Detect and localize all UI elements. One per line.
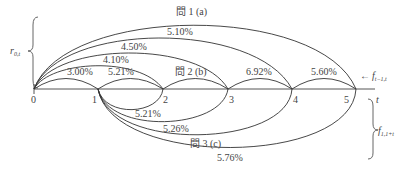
arc-1-2-forward [98,79,163,90]
arc-2-3-forward [163,79,228,90]
tick-4: 4 [293,94,298,105]
forward-rate-label: ft−1,t [372,70,387,82]
label-arc-1-4-question-3c: 問 3 (c) [190,138,221,150]
label-arc-3-4-forward: 6.92% [246,66,272,77]
label-arc-0-1: 3.00% [67,66,93,77]
label-arc-0-4: 5.10% [167,26,193,37]
arc-3-4-forward [228,79,292,90]
label-arc-1-2-lower: 5.21% [135,108,161,119]
tick-3: 3 [229,94,234,105]
spot-rate-brace [28,17,38,88]
forward-from-1-label: f1,1+t [378,125,394,137]
label-arc-0-5-question-1a: 問 1 (a) [176,6,207,18]
term-structure-diagram: 0 1 2 3 4 5 t 3.00% 4.10% 4.50% 5.10% 問 … [0,0,411,172]
tick-1: 1 [92,94,97,105]
tick-5: 5 [344,94,349,105]
label-arc-1-2-forward: 5.21% [108,66,134,77]
label-arc-1-3-lower: 5.26% [163,123,189,134]
label-arc-4-5-forward: 5.60% [311,66,337,77]
tick-0: 0 [31,94,36,105]
arc-0-1 [34,79,98,90]
arrow-left-icon: ← [360,70,370,81]
label-arc-0-3: 4.50% [121,41,147,52]
arc-1-4-lower [98,89,292,135]
spot-rate-label: r0,t [10,45,20,57]
label-arc-1-5-lower: 5.76% [217,152,243,163]
label-arc-2-3-question-2b: 問 2 (b) [175,66,207,78]
tick-2: 2 [163,94,168,105]
arc-4-5-forward [292,79,356,90]
forward-from-1-brace [368,99,378,159]
label-arc-0-2: 4.10% [103,54,129,65]
arc-0-5 [34,25,356,89]
arc-0-4 [34,38,292,89]
arc-1-2-lower [98,89,163,110]
axis-label-t: t [376,94,379,105]
